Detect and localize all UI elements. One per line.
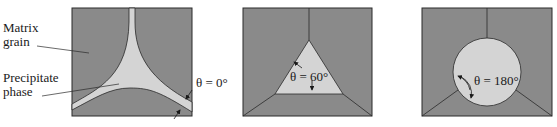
panel-theta-180 — [422, 8, 552, 116]
angle-label-60: θ = 60° — [290, 70, 328, 84]
panel-theta-60 — [243, 8, 372, 116]
matrix-grain-label: Matrix grain — [3, 21, 38, 49]
panel-theta-0 — [37, 8, 192, 119]
diagram-canvas — [0, 0, 557, 127]
angle-label-0: θ = 0° — [196, 76, 228, 90]
precipitate-phase-label: Precipitate phase — [3, 71, 59, 99]
angle-label-180: θ = 180° — [474, 74, 519, 88]
precipitate-sphere — [453, 38, 521, 106]
